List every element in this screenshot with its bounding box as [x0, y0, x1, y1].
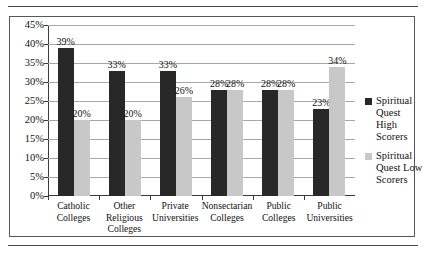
bar-value-label: 28% [277, 79, 295, 89]
bar-value-label: 34% [328, 56, 346, 66]
bar-group: 39%20% [48, 25, 99, 196]
legend-item[interactable]: Spiritual Quest High Scorers [365, 95, 423, 143]
bar-group: 33%26% [150, 25, 201, 196]
bar[interactable]: 20% [74, 120, 90, 196]
bar-groups: 39%20%33%20%33%26%28%28%28%28%23%34% [48, 25, 355, 196]
legend-swatch-icon [365, 98, 372, 105]
bar-value-label: 26% [175, 86, 193, 96]
bar-value-label: 23% [312, 98, 330, 108]
y-axis-tick-label: 20% [25, 115, 44, 126]
bar-group: 33%20% [99, 25, 150, 196]
bar-value-label: 39% [56, 37, 74, 47]
bar-pair: 28%28% [202, 25, 253, 196]
legend-label: Spiritual Quest High Scorers [376, 95, 423, 143]
legend-item[interactable]: Spiritual Quest Low Scorers [365, 150, 423, 186]
bar[interactable]: 39% [58, 48, 74, 196]
x-axis-category-label: Public Colleges [253, 200, 304, 235]
y-axis-tick-label: 45% [25, 20, 44, 31]
rule-below-figure [8, 245, 418, 246]
y-axis-tick-label: 5% [30, 172, 44, 183]
chart-legend: Spiritual Quest High ScorersSpiritual Qu… [365, 95, 423, 193]
y-axis-tick-label: 10% [25, 153, 44, 164]
bar-pair: 33%26% [150, 25, 201, 196]
bar-value-label: 28% [226, 79, 244, 89]
rule-above-figure [8, 6, 418, 7]
bar[interactable]: 28% [227, 90, 243, 196]
bar[interactable]: 20% [125, 120, 141, 196]
bar[interactable]: 33% [109, 71, 125, 196]
bar[interactable]: 28% [262, 90, 278, 196]
bar[interactable]: 26% [176, 97, 192, 196]
y-axis-tick-label: 30% [25, 77, 44, 88]
y-axis-tick-label: 35% [25, 58, 44, 69]
bar-value-label: 33% [159, 60, 177, 70]
bar-value-label: 20% [72, 109, 90, 119]
legend-label: Spiritual Quest Low Scorers [376, 150, 423, 186]
x-axis-category-labels: Catholic CollegesOther Religious College… [48, 200, 355, 235]
bar-value-label: 33% [108, 60, 126, 70]
bar-pair: 39%20% [48, 25, 99, 196]
bar-group: 23%34% [304, 25, 355, 196]
x-axis-category-label: Public Universities [304, 200, 355, 235]
plot-area: 0%5%10%15%20%25%30%35%40%45% 39%20%33%20… [48, 25, 355, 196]
figure-container: 0%5%10%15%20%25%30%35%40%45% 39%20%33%20… [0, 0, 426, 255]
bar[interactable]: 28% [278, 90, 294, 196]
bar-group: 28%28% [202, 25, 253, 196]
chart-frame: 0%5%10%15%20%25%30%35%40%45% 39%20%33%20… [9, 16, 415, 237]
y-axis-tick-label: 0% [30, 191, 44, 202]
x-axis-category-label: Catholic Colleges [48, 200, 99, 235]
legend-swatch-icon [365, 153, 372, 160]
x-axis-category-label: Nonsectarian Colleges [201, 200, 254, 235]
y-axis-tick-label: 40% [25, 39, 44, 50]
bar[interactable]: 23% [313, 109, 329, 196]
y-axis-tick-label: 15% [25, 134, 44, 145]
bar-pair: 23%34% [304, 25, 355, 196]
bar-pair: 33%20% [99, 25, 150, 196]
bar-value-label: 20% [124, 109, 142, 119]
x-axis-category-label: Other Religious Colleges [99, 200, 150, 235]
x-axis-category-label: Private Universities [150, 200, 201, 235]
bar[interactable]: 34% [329, 67, 345, 196]
bar-pair: 28%28% [253, 25, 304, 196]
bar[interactable]: 28% [211, 90, 227, 196]
bar-group: 28%28% [253, 25, 304, 196]
y-axis-tick-label: 25% [25, 96, 44, 107]
bar[interactable]: 33% [160, 71, 176, 196]
